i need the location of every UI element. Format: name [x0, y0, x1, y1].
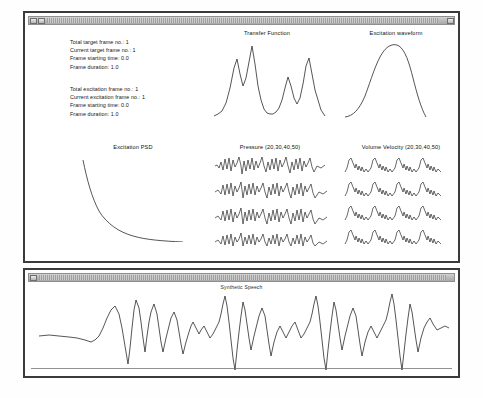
excitation-start-time: Frame starting time: 0.0	[70, 101, 145, 109]
excitation-waveform-plot: Excitation waveform	[331, 30, 461, 120]
excitation-total-frame: Total excitation frame no.: 1	[70, 85, 145, 93]
upper-titlebar[interactable]	[28, 16, 455, 25]
lower-titlebar-grip	[39, 275, 446, 280]
upper-panel-window: Total target frame no.: 1 Current target…	[23, 11, 460, 263]
volume-velocity-plot: Volume Velocity (20,30,40,50)	[337, 144, 465, 246]
excitation-frame-info: Total excitation frame no.: 1 Current ex…	[70, 85, 145, 118]
waveform-baseline	[31, 368, 452, 369]
target-start-time: Frame starting time: 0.0	[70, 54, 136, 62]
window-menu-button[interactable]	[30, 18, 37, 24]
transfer-function-plot: Transfer Function	[208, 30, 326, 120]
target-current-frame: Current target frame no.: 1	[70, 46, 136, 54]
lower-window-menu-button[interactable]	[30, 275, 37, 281]
excitation-waveform-title: Excitation waveform	[331, 30, 461, 36]
titlebar-grip	[47, 18, 438, 23]
minimize-button[interactable]	[38, 18, 45, 24]
excitation-psd-title: Excitation PSD	[73, 144, 193, 150]
excitation-current-frame: Current excitation frame no.: 1	[70, 93, 145, 101]
lower-panel-window: Synthetic Speech	[23, 268, 460, 378]
target-duration: Frame duration: 1.0	[70, 63, 136, 71]
transfer-function-title: Transfer Function	[208, 30, 326, 36]
excitation-waveform-trace	[331, 40, 461, 118]
lower-titlebar[interactable]	[28, 273, 455, 282]
excitation-psd-trace	[73, 154, 193, 242]
excitation-psd-plot: Excitation PSD	[73, 144, 193, 244]
excitation-duration: Frame duration: 1.0	[70, 110, 145, 118]
volume-velocity-title: Volume Velocity (20,30,40,50)	[337, 144, 465, 150]
synthetic-speech-trace	[33, 288, 453, 372]
maximize-button[interactable]	[447, 18, 454, 24]
target-total-frame: Total target frame no.: 1	[70, 38, 136, 46]
target-frame-info: Total target frame no.: 1 Current target…	[70, 38, 136, 71]
transfer-function-trace	[208, 40, 326, 118]
pressure-traces	[209, 154, 331, 246]
volume-velocity-traces	[337, 154, 465, 246]
pressure-plot: Pressure (20,30,40,50)	[209, 144, 331, 246]
application-window: Total target frame no.: 1 Current target…	[0, 0, 483, 398]
pressure-title: Pressure (20,30,40,50)	[209, 144, 331, 150]
